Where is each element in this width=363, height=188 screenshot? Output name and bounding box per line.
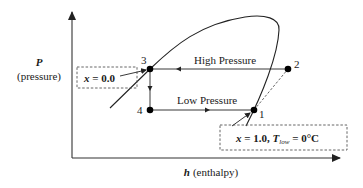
ph-diagram: 1 2 3 4 High Pressure Low Pressure P (pr… [0,0,363,188]
expansion-arrow-icon [148,86,153,91]
point-4-label: 4 [137,104,143,116]
y-axis-label: (pressure) [17,70,61,83]
point-2 [285,66,292,73]
point-3 [147,66,154,73]
x-axis-label: (enthalpy) [193,166,239,179]
low-pressure-arrow-icon [205,108,210,113]
point-4 [147,107,154,114]
compression-line [254,69,288,110]
y-axis-symbol: P [36,56,43,68]
point-3-label: 3 [141,54,147,66]
high-pressure-label: High Pressure [194,54,256,66]
left-annotation-arrow-icon [120,70,146,76]
x-axis-label-group: h(enthalpy) [184,166,239,179]
point-1-label: 1 [259,108,265,120]
left-annotation-text: x = 0.0 [83,72,116,84]
x-axis-symbol: h [184,166,190,178]
low-pressure-label: Low Pressure [177,94,237,106]
right-annotation-text: x = 1.0, Tlow = 0°C [235,132,319,146]
point-2-label: 2 [294,58,300,70]
high-pressure-arrow-icon [176,67,181,72]
point-1 [251,107,258,114]
